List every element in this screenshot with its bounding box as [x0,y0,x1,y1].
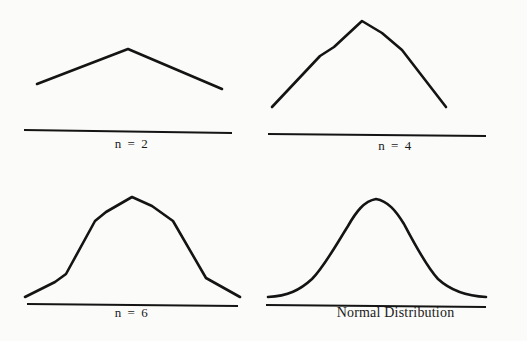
panel-label-normal-distribution: Normal Distribution [264,305,527,321]
curve-n-4 [272,21,446,107]
baseline-n-2 [24,130,232,133]
baseline-n-4 [268,134,486,136]
curve-n-2 [37,49,222,89]
panel-label-n-6: n = 6 [0,305,264,321]
figure-canvas: n = 2 n = 4 n = 6 Normal Distribution [0,0,527,341]
panel-label-n-2: n = 2 [0,136,264,152]
panel-normal-distribution: Normal Distribution [264,171,527,341]
panel-n-6: n = 6 [0,171,264,341]
curve-n-6 [25,197,240,297]
panel-n-2: n = 2 [0,0,264,171]
panel-label-n-4: n = 4 [264,138,527,154]
curve-normal-distribution [268,199,486,297]
panel-n-4: n = 4 [264,0,527,171]
